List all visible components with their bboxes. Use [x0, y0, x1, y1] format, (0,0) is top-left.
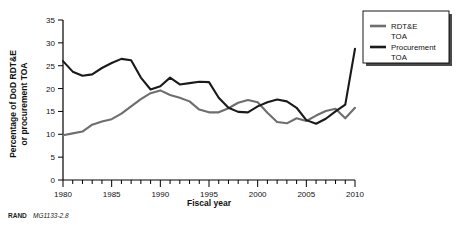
x-tick-label: 1980 — [54, 190, 72, 199]
figure-container: Percentage of DoD RDT&E or procurement T… — [0, 0, 457, 236]
x-tick-label: 2005 — [297, 190, 315, 199]
x-tick-label: 1990 — [151, 190, 169, 199]
y-tick-label: 35 — [46, 16, 55, 25]
y-tick-label: 15 — [46, 107, 55, 116]
legend-label-procurement-line2: TOA — [391, 53, 408, 62]
legend: RDT&E TOA Procurement TOA — [363, 11, 452, 66]
series-line-rdte — [63, 90, 355, 135]
line-chart: Percentage of DoD RDT&E or procurement T… — [0, 0, 457, 236]
y-axis-tick-labels: 05101520253035 — [46, 16, 55, 185]
legend-label-rdte-line1: RDT&E — [391, 22, 417, 31]
y-tick-label: 20 — [46, 85, 55, 94]
y-tick-label: 10 — [46, 130, 55, 139]
y-tick-label: 25 — [46, 62, 55, 71]
x-tick-label: 2010 — [346, 190, 364, 199]
x-axis-title: Fiscal year — [187, 198, 232, 208]
figure-footer: RAND MG1133-2.8 — [8, 212, 69, 219]
x-tick-label: 2000 — [249, 190, 267, 199]
legend-label-rdte-line2: TOA — [391, 32, 408, 41]
y-axis-title-line1: Percentage of DoD RDT&E — [8, 50, 18, 158]
footer-figure-id: MG1133-2.8 — [33, 212, 69, 219]
y-axis-ticks — [58, 20, 63, 180]
x-tick-label: 1985 — [103, 190, 121, 199]
y-tick-label: 0 — [51, 176, 56, 185]
y-axis-title: Percentage of DoD RDT&E or procurement T… — [8, 50, 29, 158]
legend-label-procurement-line1: Procurement — [391, 43, 436, 52]
y-tick-label: 5 — [51, 153, 56, 162]
y-axis-title-line2: or procurement TOA — [19, 63, 29, 146]
y-tick-label: 30 — [46, 39, 55, 48]
x-axis-ticks — [63, 180, 355, 187]
footer-org: RAND — [8, 212, 27, 219]
